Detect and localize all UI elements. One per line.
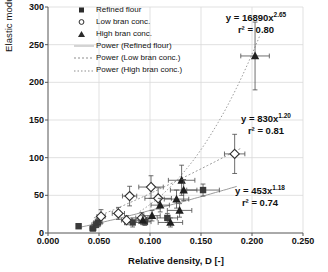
eq-low-bran-line1: y = 830x	[241, 113, 278, 124]
legend-item[interactable]: High bran conc.	[74, 28, 182, 40]
legend-label: Power (High bran conc.)	[96, 64, 182, 76]
eq-refined-line1: y = 453x	[235, 185, 272, 196]
legend-label: Refined flour	[96, 4, 141, 16]
data-marker-diamond	[230, 149, 239, 158]
legend-marker-line-dotted-fine-icon	[74, 65, 96, 77]
data-marker-triangle	[148, 211, 156, 219]
eq-high-bran-exponent: 2.65	[274, 11, 287, 18]
annotation-equation-refined: y = 453x1.18 r² = 0.74	[206, 184, 314, 209]
legend-marker-line-dotted-icon	[74, 52, 96, 64]
eq-refined-line2: r² = 0.74	[242, 197, 278, 208]
eq-low-bran-line2: r² = 0.81	[248, 125, 284, 136]
legend-label: Power (Low bran conc.)	[96, 52, 180, 64]
legend-label: High bran conc.	[96, 28, 152, 40]
annotation-equation-high-bran: y = 16890x2.65 r² = 0.80	[196, 11, 316, 36]
data-marker-triangle	[172, 195, 180, 203]
chart-legend: Refined flourLow bran conc.High bran con…	[74, 4, 182, 77]
data-marker-diamond	[146, 182, 155, 191]
legend-item[interactable]: Power (High bran conc.)	[74, 64, 182, 76]
legend-item[interactable]: Power (Refined flour)	[74, 40, 182, 52]
legend-item[interactable]: Power (Low bran conc.)	[74, 52, 182, 64]
annotation-equation-low-bran: y = 830x1.20 r² = 0.81	[214, 112, 318, 137]
legend-item[interactable]: Low bran conc.	[74, 16, 182, 28]
data-marker-diamond	[125, 191, 134, 200]
legend-marker-filled-square-icon	[74, 4, 96, 16]
legend-item[interactable]: Refined flour	[74, 4, 182, 16]
chart-figure: Elastic modulus, E' [MPa] 05010015020025…	[0, 0, 328, 272]
legend-marker-line-solid-icon	[74, 40, 96, 52]
data-marker-square	[75, 223, 81, 229]
legend-label: Low bran conc.	[96, 16, 150, 28]
eq-refined-exponent: 1.18	[272, 184, 285, 191]
legend-label: Power (Refined flour)	[96, 40, 172, 52]
legend-marker-open-circle-icon	[74, 16, 96, 28]
legend-marker-filled-triangle-icon	[74, 28, 96, 40]
eq-low-bran-exponent: 1.20	[278, 112, 291, 119]
eq-high-bran-line2: r² = 0.80	[238, 24, 274, 35]
data-marker-diamond	[114, 209, 123, 218]
eq-high-bran-line1: y = 16890x	[226, 12, 274, 23]
